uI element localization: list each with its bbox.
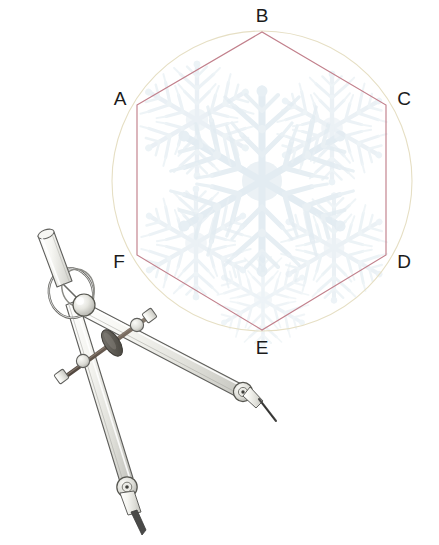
- vertex-label-f: F: [113, 251, 125, 272]
- vertex-label-e: E: [256, 337, 269, 358]
- crossbar-end-cap-left: [54, 369, 69, 384]
- pencil-tip: [131, 510, 146, 535]
- vertex-label-c: C: [397, 88, 411, 109]
- crossbar-pivot-left: [76, 354, 89, 367]
- crossbar-pivot-right: [130, 318, 143, 331]
- compass-handle[interactable]: [37, 227, 82, 303]
- vertex-label-a: A: [114, 88, 127, 109]
- vertex-label-b: B: [256, 5, 269, 26]
- snowflake-watermark: [134, 61, 392, 348]
- compass-hinge-knob[interactable]: [73, 294, 95, 316]
- figure-canvas: A B C D E F: [0, 0, 439, 545]
- compass-needle-assembly: [233, 382, 276, 421]
- compass-pencil-assembly: [117, 477, 146, 535]
- vertex-label-d: D: [397, 251, 411, 272]
